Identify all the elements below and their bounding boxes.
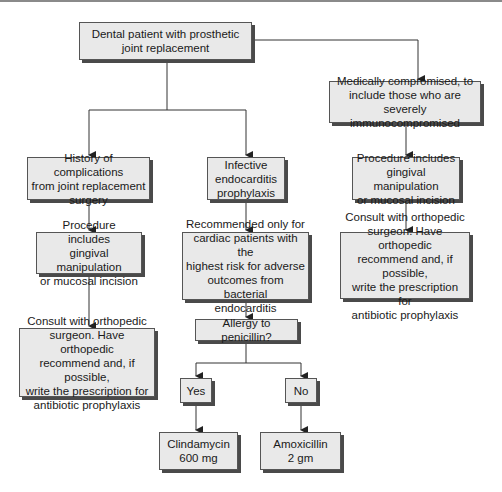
node-allergy-question: Allergy to penicillin? [195, 319, 298, 341]
node-consult-left: Consult with orthopedic surgeon. Have or… [19, 328, 155, 397]
node-recommended-only: Recommended only for cardiac patients wi… [182, 232, 309, 300]
node-infective-endocarditis: Infective endocarditis prophylaxis [207, 157, 285, 200]
node-no: No [285, 378, 317, 403]
node-medically-compromised: Medically compromised, to include those … [329, 81, 481, 123]
node-procedure-left: Procedure includes gingival manipulation… [36, 232, 142, 274]
node-consult-right: Consult with orthopedic surgeon. Have or… [340, 232, 470, 299]
node-procedure-right: Procedure includes gingival manipulation… [352, 157, 460, 200]
node-yes: Yes [180, 378, 212, 403]
node-history-complications: History of complications from joint repl… [27, 157, 150, 200]
node-amoxicillin: Amoxicillin 2 gm [260, 432, 341, 470]
node-root: Dental patient with prosthetic joint rep… [79, 22, 252, 60]
node-clindamycin: Clindamycin 600 mg [159, 432, 238, 470]
